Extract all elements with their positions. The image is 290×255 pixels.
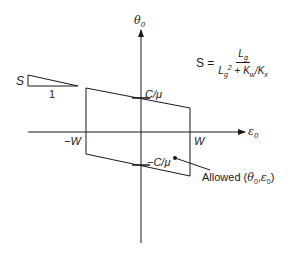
theta-axis-label: θ0	[134, 15, 145, 29]
denominator-term2-sub: x	[264, 71, 268, 78]
formula-fraction: Lg Lg2 + Kw/Kx	[218, 48, 267, 78]
slope-triangle	[28, 75, 78, 86]
numerator-sub: g	[244, 54, 248, 61]
theta-subscript: 0	[141, 21, 145, 29]
denominator-term: K	[243, 65, 250, 76]
epsilon-subscript: 0	[254, 132, 258, 140]
denominator-plus: +	[235, 65, 241, 76]
theta-symbol: θ	[134, 14, 141, 27]
region-prefix: Allowed (	[202, 171, 247, 183]
denominator-sub: g	[224, 71, 228, 78]
top-intercept-label: C/μ	[145, 89, 162, 100]
denominator-sup: 2	[228, 64, 232, 71]
allowed-region-label: Allowed (θ0,ε0)	[202, 172, 274, 185]
formula-denominator: Lg2 + Kw/Kx	[218, 63, 267, 78]
bottom-intercept-label: −C/μ	[147, 157, 170, 168]
region-suffix: )	[271, 171, 275, 183]
slope-formula: S = Lg Lg2 + Kw/Kx	[196, 48, 268, 78]
formula-numerator: Lg	[236, 48, 249, 63]
left-bound-label: −W	[64, 136, 81, 147]
allowed-leader	[175, 158, 210, 170]
right-bound-label: W	[194, 136, 204, 147]
slope-run-label: 1	[49, 89, 55, 100]
region-theta: θ	[247, 171, 254, 184]
epsilon-axis-label: ε0	[248, 126, 258, 140]
diagram-canvas	[0, 0, 290, 255]
slope-rise-label: S	[16, 75, 24, 87]
formula-lhs: S =	[196, 56, 214, 70]
